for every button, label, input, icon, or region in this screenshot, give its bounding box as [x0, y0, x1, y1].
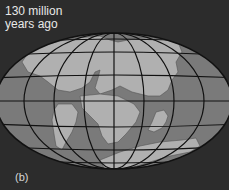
time-caption: 130 million years ago	[5, 5, 62, 31]
figure-panel: 130 million years ago (b)	[0, 0, 229, 190]
panel-label: (b)	[15, 171, 28, 183]
caption-line-2: years ago	[5, 18, 62, 31]
